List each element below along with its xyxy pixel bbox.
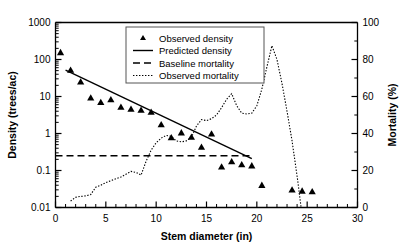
y2-tick-label: 0 (363, 202, 369, 213)
observed-density-marker (117, 103, 124, 109)
observed-density-marker (87, 94, 94, 100)
y2-axis-title: Mortality (%) (386, 84, 398, 147)
y-tick-label: 0.01 (31, 202, 51, 213)
y-tick-label: 1 (45, 128, 51, 139)
observed-density-marker (248, 162, 255, 168)
observed-density-marker (228, 158, 235, 164)
observed-density-marker (198, 143, 205, 149)
x-tick-label: 5 (103, 213, 109, 224)
y2-tick-label: 100 (363, 17, 380, 28)
y2-tick-label: 20 (363, 165, 375, 176)
observed-density-marker (97, 99, 104, 105)
legend-label: Baseline mortality (159, 58, 234, 69)
y2-tick-label: 80 (363, 54, 375, 65)
density-mortality-chart: 051015202530 0.010.11101001000 020406080… (0, 0, 407, 248)
observed-density-marker (57, 49, 64, 55)
y-tick-label: 0.1 (37, 165, 51, 176)
x-tick-label: 0 (53, 213, 59, 224)
x-axis-ticks: 051015202530 (53, 202, 364, 224)
y-axis-left-ticks: 0.010.11101001000 (28, 17, 61, 213)
observed-density-marker (168, 134, 175, 140)
observed-density-marker (309, 188, 316, 194)
observed-density-marker (218, 163, 225, 169)
observed-density-marker (288, 186, 295, 192)
observed-density-marker (238, 161, 245, 167)
x-tick-label: 10 (151, 213, 163, 224)
legend-label: Predicted density (159, 45, 232, 56)
y2-tick-label: 40 (363, 128, 375, 139)
y2-tick-label: 60 (363, 91, 375, 102)
y-tick-label: 100 (34, 54, 51, 65)
y-axis-title: Density (trees/ac) (6, 71, 18, 159)
legend-label: Observed density (159, 33, 233, 44)
x-axis-title: Stem diameter (in) (161, 230, 253, 242)
observed-density-marker (127, 105, 134, 111)
observed-density-marker (299, 187, 306, 193)
observed-density-marker (158, 121, 165, 127)
observed-density-marker (107, 96, 114, 102)
observed-density-marker (258, 182, 265, 188)
x-tick-label: 15 (201, 213, 213, 224)
x-tick-label: 25 (302, 213, 314, 224)
chart-figure: 051015202530 0.010.11101001000 020406080… (0, 0, 407, 248)
x-tick-label: 20 (251, 213, 263, 224)
y-tick-label: 10 (39, 91, 51, 102)
x-tick-label: 30 (352, 213, 364, 224)
y-tick-label: 1000 (28, 17, 51, 28)
observed-density-marker (178, 129, 185, 135)
y-axis-right-ticks: 020406080100 (352, 17, 380, 213)
observed-density-marker (208, 130, 215, 136)
legend-label: Observed mortality (159, 70, 239, 81)
chart-legend: Observed densityPredicted densityBaselin… (126, 27, 264, 83)
